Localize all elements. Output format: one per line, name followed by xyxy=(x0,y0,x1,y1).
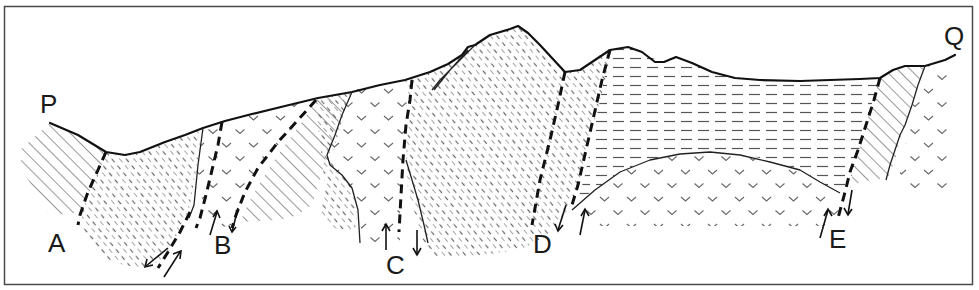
label-c: C xyxy=(386,250,405,280)
label-a: A xyxy=(48,228,66,258)
label-e: E xyxy=(829,224,846,254)
cross-section-diagram: P Q A B C D E xyxy=(0,0,979,290)
unit-dashed-diagonal-main xyxy=(405,26,610,258)
label-p: P xyxy=(40,89,57,119)
label-d: D xyxy=(533,229,552,259)
label-b: B xyxy=(214,230,231,260)
label-q: Q xyxy=(944,21,964,51)
